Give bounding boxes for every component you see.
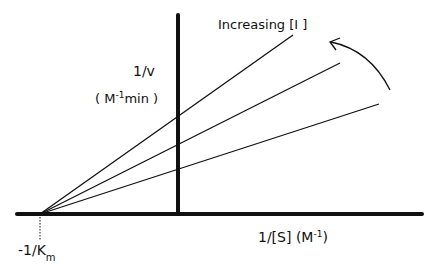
- y-axis-unit: ( M-1min ): [95, 90, 158, 106]
- annotation-increasing-inhibitor: Increasing [I ]: [218, 17, 307, 32]
- line-high-inhibitor: [40, 35, 293, 214]
- x-unit-close: ): [322, 229, 327, 245]
- diagram-canvas: [0, 0, 434, 279]
- line-low-inhibitor: [40, 104, 379, 214]
- x-axis-label: 1/[S] (M-1): [258, 229, 328, 245]
- y-unit-open: ( M: [95, 91, 115, 106]
- y-unit-close: min ): [124, 91, 158, 106]
- y-axis-label: 1/v: [133, 63, 155, 79]
- x-axis-main: 1/[S]: [258, 229, 291, 245]
- increasing-arrow: [331, 42, 390, 90]
- km-main: -1/K: [18, 242, 46, 258]
- km-subscript: m: [46, 252, 56, 263]
- line-medium-inhibitor: [40, 63, 340, 214]
- x-unit-open: (M: [296, 229, 314, 245]
- km-intercept-label: -1/Km: [18, 242, 56, 263]
